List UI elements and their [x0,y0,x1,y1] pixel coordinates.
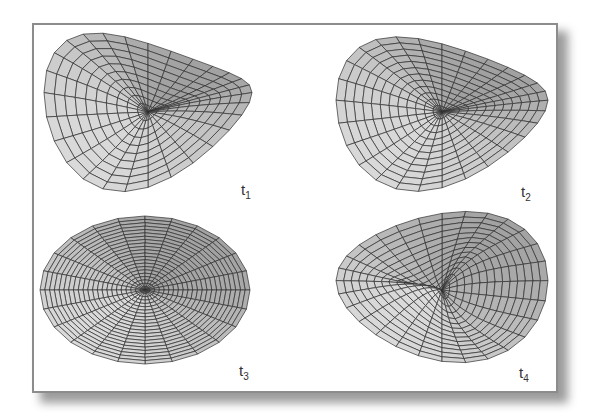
mesh-panel-t1 [44,33,252,191]
mesh-panel-t3 [40,216,250,364]
panel-label-t1: t1 [241,181,251,201]
panel-label-t2: t2 [521,183,531,203]
mesh-panel-t4 [336,211,548,362]
mesh-panel-t2 [336,37,548,192]
panel-label-t3: t3 [239,362,249,382]
panel-label-t4: t4 [519,364,529,384]
mesh-stage [0,0,592,418]
